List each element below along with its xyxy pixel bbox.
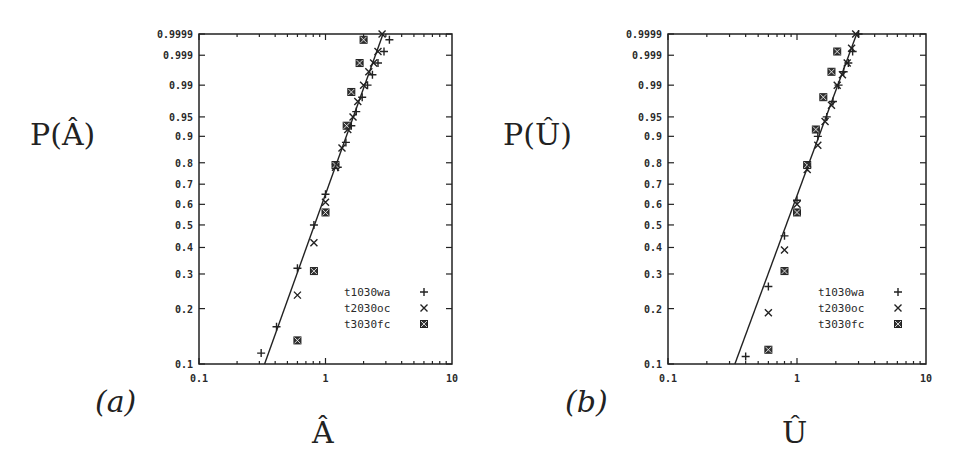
y-tick-label: 0.9999 [626, 29, 662, 40]
plot-frame [199, 34, 452, 364]
panel-b-plot: 0.11100.10.20.30.40.50.60.70.80.90.950.9… [626, 29, 932, 384]
y-tick-label: 0.999 [632, 50, 662, 61]
y-tick-label: 0.95 [638, 112, 662, 123]
y-tick-label: 0.3 [644, 269, 662, 280]
y-tick-label: 0.99 [169, 80, 193, 91]
legend-label: t2030oc [344, 302, 390, 315]
legend-label: t3030fc [818, 318, 864, 331]
cross-marker-icon [781, 246, 788, 253]
legend-plus-icon [420, 288, 428, 296]
y-tick-label: 0.2 [175, 304, 193, 315]
plus-marker-icon [742, 353, 750, 361]
x-tick-label: 1 [322, 373, 328, 384]
panel-b-label: (b) [565, 384, 608, 419]
y-tick-label: 0.9 [175, 131, 193, 142]
y-tick-label: 0.4 [644, 242, 662, 253]
legend: t1030wat2030oct3030fc [344, 286, 428, 331]
panel-b-xlabel: Û [782, 415, 807, 450]
y-tick-label: 0.999 [163, 50, 193, 61]
plus-marker-icon [374, 59, 382, 67]
legend-label: t1030wa [818, 286, 864, 299]
y-tick-label: 0.95 [169, 112, 193, 123]
legend-cross-icon [421, 305, 428, 312]
legend-plus-icon [894, 288, 902, 296]
y-tick-label: 0.9999 [157, 29, 193, 40]
plus-marker-icon [764, 282, 772, 290]
x-tick-label: 0.1 [659, 373, 677, 384]
panel-a-xlabel: Â [311, 415, 334, 450]
y-tick-label: 0.4 [175, 242, 193, 253]
y-tick-label: 0.9 [644, 131, 662, 142]
y-tick-label: 0.6 [175, 199, 193, 210]
cross-marker-icon [294, 292, 301, 299]
legend-label: t3030fc [344, 318, 390, 331]
cross-marker-icon [310, 239, 317, 246]
cross-marker-icon [765, 309, 772, 316]
panel-a-ylabel: P(Â) [30, 117, 95, 152]
y-tick-label: 0.7 [175, 179, 193, 190]
y-tick-label: 0.6 [644, 199, 662, 210]
y-tick-label: 0.5 [175, 220, 193, 231]
legend: t1030wat2030oct3030fc [818, 286, 902, 331]
panel-a-plot: 0.11100.10.20.30.40.50.60.70.80.90.950.9… [157, 29, 458, 384]
legend-label: t1030wa [344, 286, 390, 299]
legend-label: t2030oc [818, 302, 864, 315]
panel-a-label: (a) [95, 384, 136, 419]
panel-b-ylabel: P(Û) [503, 117, 572, 152]
y-tick-label: 0.8 [644, 158, 662, 169]
y-tick-label: 0.1 [644, 359, 662, 370]
x-tick-label: 10 [920, 373, 932, 384]
x-tick-label: 1 [794, 373, 800, 384]
legend-cross-icon [895, 305, 902, 312]
y-tick-label: 0.7 [644, 179, 662, 190]
y-tick-label: 0.8 [175, 158, 193, 169]
figure: 0.11100.10.20.30.40.50.60.70.80.90.950.9… [0, 0, 969, 463]
y-tick-label: 0.1 [175, 359, 193, 370]
x-tick-label: 0.1 [190, 373, 208, 384]
y-tick-label: 0.2 [644, 304, 662, 315]
y-tick-label: 0.99 [638, 80, 662, 91]
y-tick-label: 0.3 [175, 269, 193, 280]
x-tick-label: 10 [446, 373, 458, 384]
plus-marker-icon [257, 349, 265, 357]
y-tick-label: 0.5 [644, 220, 662, 231]
plus-marker-icon [385, 36, 393, 44]
